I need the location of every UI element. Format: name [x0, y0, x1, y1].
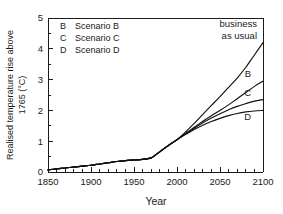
- y-axis-ticks: [48, 18, 53, 172]
- legend-label-d: Scenario D: [75, 45, 120, 55]
- legend-key-b: B: [60, 21, 66, 31]
- y-tick-label: 4: [38, 43, 43, 54]
- temperature-rise-line-chart: 012345 185019001950200020502100 Realised…: [0, 0, 283, 214]
- x-tick-label: 2050: [209, 176, 230, 187]
- y-axis-title-line2: 1765 (°C): [17, 76, 27, 115]
- y-tick-label: 5: [38, 12, 43, 23]
- annotation-line1: business: [220, 18, 258, 29]
- y-axis-tick-labels: 012345: [38, 12, 43, 177]
- curve-c: [48, 100, 263, 170]
- curve-b: [48, 81, 263, 170]
- curve-business-as-usual: [48, 43, 263, 170]
- curve-d: [48, 110, 263, 169]
- curve-end-labels: B C D: [244, 68, 251, 122]
- x-tick-label: 1950: [123, 176, 144, 187]
- legend-key-c: C: [60, 33, 67, 43]
- x-tick-label: 1900: [80, 176, 101, 187]
- annotation-line2: as usual: [222, 30, 257, 41]
- data-curves: [48, 43, 263, 170]
- chart-figure: 012345 185019001950200020502100 Realised…: [0, 0, 283, 214]
- y-axis-title-line1: Realised temperature rise above: [5, 30, 15, 160]
- chart-legend: B Scenario B C Scenario C D Scenario D: [60, 21, 120, 55]
- x-axis-tick-labels: 185019001950200020502100: [37, 176, 273, 187]
- business-as-usual-annotation: business as usual: [220, 18, 258, 41]
- x-tick-label: 1850: [37, 176, 58, 187]
- curve-label-b: B: [245, 68, 251, 79]
- y-tick-label: 3: [38, 74, 43, 85]
- y-axis-title: Realised temperature rise above 1765 (°C…: [5, 30, 27, 160]
- curve-label-c: C: [244, 87, 251, 98]
- y-tick-label: 2: [38, 105, 43, 116]
- x-tick-label: 2000: [166, 176, 187, 187]
- x-tick-label: 2100: [252, 176, 273, 187]
- legend-label-b: Scenario B: [75, 21, 119, 31]
- legend-label-c: Scenario C: [75, 33, 120, 43]
- x-axis-title: Year: [145, 195, 167, 207]
- y-tick-label: 1: [38, 136, 43, 147]
- curve-label-d: D: [244, 111, 251, 122]
- legend-key-d: D: [60, 45, 67, 55]
- x-axis-ticks: [48, 167, 263, 172]
